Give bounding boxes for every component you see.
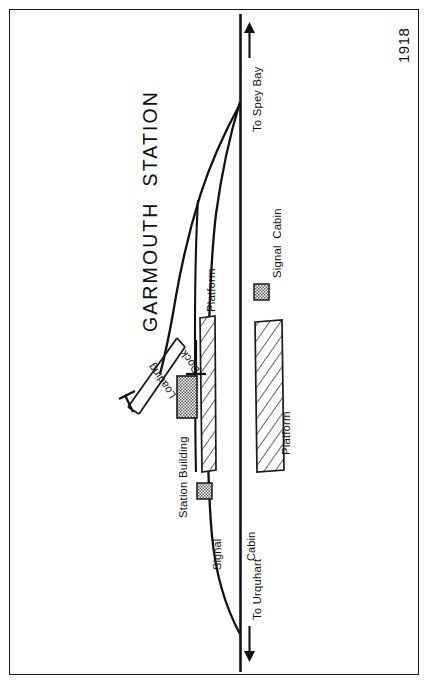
signal-cabin-south-label-line1: Signal bbox=[212, 532, 223, 570]
signal-cabin-south bbox=[197, 483, 212, 499]
signal-cabin-south-label: Signal Cabin bbox=[190, 532, 280, 570]
loading-dock-label-line2: Dock bbox=[174, 342, 202, 375]
platform-east-label: Platform bbox=[281, 411, 293, 455]
signal-cabin-north bbox=[254, 284, 269, 300]
year-label: 1918 bbox=[396, 28, 412, 63]
diagram-page: GARMOUTH STATION 1918 To Spey Bay To Urq… bbox=[0, 0, 428, 684]
track-diagram-svg bbox=[0, 0, 428, 684]
platform-west-label: Platform bbox=[206, 268, 218, 312]
siding-track bbox=[160, 104, 240, 472]
station-building-label: Station Building bbox=[178, 436, 190, 518]
signal-cabin-north-label: Signal Cabin bbox=[272, 208, 284, 278]
north-arrow-icon bbox=[244, 22, 255, 33]
south-arrow-icon bbox=[244, 651, 255, 662]
destination-label-north: To Spey Bay bbox=[252, 66, 264, 132]
loading-dock-label-line1: Loading bbox=[147, 361, 179, 400]
signal-cabin-south-label-line2: Cabin bbox=[246, 532, 257, 561]
page-title: GARMOUTH STATION bbox=[140, 90, 160, 332]
